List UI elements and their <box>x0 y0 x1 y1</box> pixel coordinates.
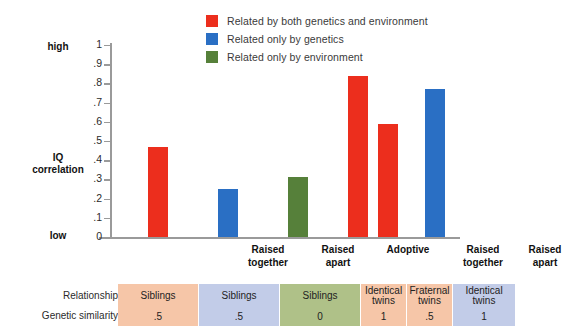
table-cell-relationship: Siblings <box>280 284 360 308</box>
table-cell-relationship: Siblings <box>199 284 279 308</box>
y-axis-tick-label: .2 <box>93 192 102 204</box>
y-axis-tick-mark <box>104 83 110 84</box>
y-axis-tick-mark <box>104 141 110 142</box>
y-axis-title-line2: correlation <box>18 164 98 176</box>
legend-swatch-red-icon <box>206 15 218 27</box>
y-axis-tick-mark <box>104 103 110 104</box>
y-axis-tick-mark <box>104 45 110 46</box>
y-axis-tick-label: .1 <box>93 211 102 223</box>
table-cell-relationship: Siblings <box>118 284 198 308</box>
summary-table: Relationship Genetic similarity Siblings… <box>0 284 482 326</box>
y-axis-tick-mark <box>104 199 110 200</box>
y-axis-tick-label: .4 <box>93 153 102 165</box>
table-cell-relationship: Fraternal twins <box>407 284 452 308</box>
legend-item-both: Related by both genetics and environment <box>206 12 476 29</box>
y-axis-tick-label: .8 <box>93 76 102 88</box>
plot-area: 1.9.8.7.6.5.4.3.2.10 <box>110 45 460 237</box>
table-column: Fraternal twins.5 <box>407 284 453 326</box>
legend-label-both: Related by both genetics and environment <box>227 15 428 27</box>
y-axis-tick-mark <box>104 179 110 180</box>
x-axis-category-label-line: Raised <box>500 244 566 257</box>
table-cell-genetic-similarity: 1 <box>453 308 515 326</box>
y-axis-tick-mark <box>104 160 110 161</box>
table-column: Siblings0 <box>280 284 361 326</box>
table-row-label-relationship: Relationship <box>8 290 118 301</box>
y-axis-tick-label: 0 <box>96 230 102 242</box>
y-axis-tick-label: 1 <box>96 38 102 50</box>
y-axis-tick-mark <box>104 237 110 238</box>
bar <box>148 147 168 237</box>
table-column: Siblings.5 <box>199 284 280 326</box>
table-cell-genetic-similarity: .5 <box>118 308 198 326</box>
y-axis-tick-label: .3 <box>93 172 102 184</box>
table-cell-relationship: Identical twins <box>361 284 406 308</box>
table-column: Identical twins1 <box>453 284 515 326</box>
y-axis-title-line1: IQ <box>18 152 98 164</box>
x-axis-category-label-line: apart <box>293 257 383 270</box>
bar <box>425 89 445 237</box>
y-axis-title: IQ correlation <box>18 152 98 176</box>
table-grid: Siblings.5Siblings.5Siblings0Identical t… <box>118 284 515 326</box>
legend-label-genetics: Related only by genetics <box>227 33 344 45</box>
bar <box>348 76 368 237</box>
bar <box>378 124 398 237</box>
table-cell-genetic-similarity: .5 <box>407 308 452 326</box>
y-axis-tick-label: .6 <box>93 115 102 127</box>
x-axis-category-label-line: apart <box>500 257 566 270</box>
bar <box>218 189 238 237</box>
table-cell-genetic-similarity: .5 <box>199 308 279 326</box>
legend-swatch-blue-icon <box>206 33 218 45</box>
y-axis-high-label: high <box>18 41 98 52</box>
table-column: Siblings.5 <box>118 284 199 326</box>
y-axis-line <box>110 43 112 237</box>
y-axis-low-label: low <box>18 230 98 241</box>
y-axis-tick-label: .9 <box>93 57 102 69</box>
y-axis-tick-label: .5 <box>93 134 102 146</box>
table-cell-relationship: Identical twins <box>453 284 515 308</box>
table-cell-genetic-similarity: 1 <box>361 308 406 326</box>
y-axis-tick-label: .7 <box>93 96 102 108</box>
y-axis-tick-mark <box>104 122 110 123</box>
x-axis-line <box>99 237 460 239</box>
x-axis-category-label: Raisedapart <box>500 244 566 269</box>
table-column: Identical twins1 <box>361 284 407 326</box>
y-axis-tick-mark <box>104 218 110 219</box>
bar <box>288 177 308 237</box>
table-cell-genetic-similarity: 0 <box>280 308 360 326</box>
table-row-label-genetic-similarity: Genetic similarity <box>8 310 118 321</box>
y-axis-tick-mark <box>104 64 110 65</box>
